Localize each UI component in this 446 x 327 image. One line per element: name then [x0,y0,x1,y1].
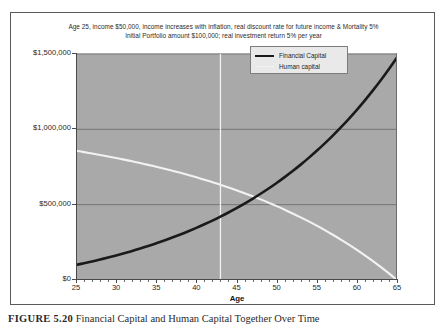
x-tick-minor-mark [285,280,286,282]
x-tick-label: 30 [104,283,128,292]
x-tick-minor-mark [333,280,334,282]
x-tick-label: 45 [225,283,249,292]
plot-svg [76,54,397,279]
x-tick-label: 65 [385,283,409,292]
x-tick-minor-mark [269,280,270,282]
x-tick-minor-mark [365,280,366,282]
figure-caption-text: Financial Capital and Human Capital Toge… [76,313,320,324]
y-tick-mark [72,204,76,205]
x-tick-mark [156,280,157,283]
x-tick-mark [317,280,318,283]
x-tick-minor-mark [325,280,326,282]
x-axis-title: Age [76,294,398,303]
x-tick-minor-mark [84,280,85,282]
figure-frame: Age 25, income $50,000, income increases… [10,12,435,305]
x-tick-minor-mark [164,280,165,282]
x-tick-minor-mark [100,280,101,282]
x-tick-label: 60 [345,283,369,292]
chart-title-line-2: Initial Portfolio amount $100,000; real … [11,31,436,40]
x-tick-minor-mark [220,280,221,282]
x-tick-minor-mark [245,280,246,282]
x-tick-minor-mark [381,280,382,282]
x-tick-minor-mark [341,280,342,282]
y-tick-label: $1,500,000 [13,48,71,57]
x-tick-minor-mark [180,280,181,282]
x-tick-label: 25 [64,283,88,292]
x-tick-minor-mark [301,280,302,282]
x-tick-minor-mark [309,280,310,282]
x-tick-minor-mark [373,280,374,282]
x-tick-minor-mark [212,280,213,282]
x-tick-minor-mark [349,280,350,282]
x-tick-mark [196,280,197,283]
x-tick-minor-mark [172,280,173,282]
y-tick-mark [72,53,76,54]
series-line-financial-capital [76,57,397,264]
x-tick-mark [76,280,77,283]
legend-label-financial-capital: Financial Capital [279,52,326,59]
x-tick-minor-mark [228,280,229,282]
x-tick-label: 55 [305,283,329,292]
series-line-human-capital [76,151,397,279]
x-tick-minor-mark [148,280,149,282]
y-tick-label: $1,000,000 [13,123,71,132]
figure-caption: FIGURE 5.20 Financial Capital and Human … [8,313,438,324]
chart-legend: Financial Capital Human capital [250,46,348,74]
plot-area [76,53,397,279]
x-tick-mark [277,280,278,283]
x-tick-mark [237,280,238,283]
y-axis-line [76,53,77,280]
x-tick-label: 35 [144,283,168,292]
y-tick-mark [72,128,76,129]
y-tick-label: $0 [13,274,71,283]
x-tick-minor-mark [132,280,133,282]
x-tick-mark [397,280,398,283]
x-tick-minor-mark [92,280,93,282]
x-tick-minor-mark [253,280,254,282]
x-tick-label: 40 [184,283,208,292]
chart-title-line-1: Age 25, income $50,000, income increases… [11,22,436,31]
x-tick-minor-mark [124,280,125,282]
legend-item-financial-capital: Financial Capital [255,50,343,61]
x-tick-minor-mark [261,280,262,282]
figure-caption-number: FIGURE 5.20 [8,313,73,324]
chart-title: Age 25, income $50,000, income increases… [11,22,436,41]
legend-label-human-capital: Human capital [279,63,320,70]
x-tick-label: 50 [265,283,289,292]
legend-item-human-capital: Human capital [255,61,343,72]
gridlines [76,54,397,205]
x-tick-minor-mark [108,280,109,282]
x-tick-minor-mark [188,280,189,282]
legend-swatch-financial-capital [255,55,274,57]
x-tick-minor-mark [140,280,141,282]
x-tick-minor-mark [293,280,294,282]
y-tick-label: $500,000 [13,199,71,208]
x-tick-minor-mark [389,280,390,282]
x-tick-mark [357,280,358,283]
x-tick-mark [116,280,117,283]
x-tick-minor-mark [204,280,205,282]
legend-swatch-human-capital [255,66,274,67]
